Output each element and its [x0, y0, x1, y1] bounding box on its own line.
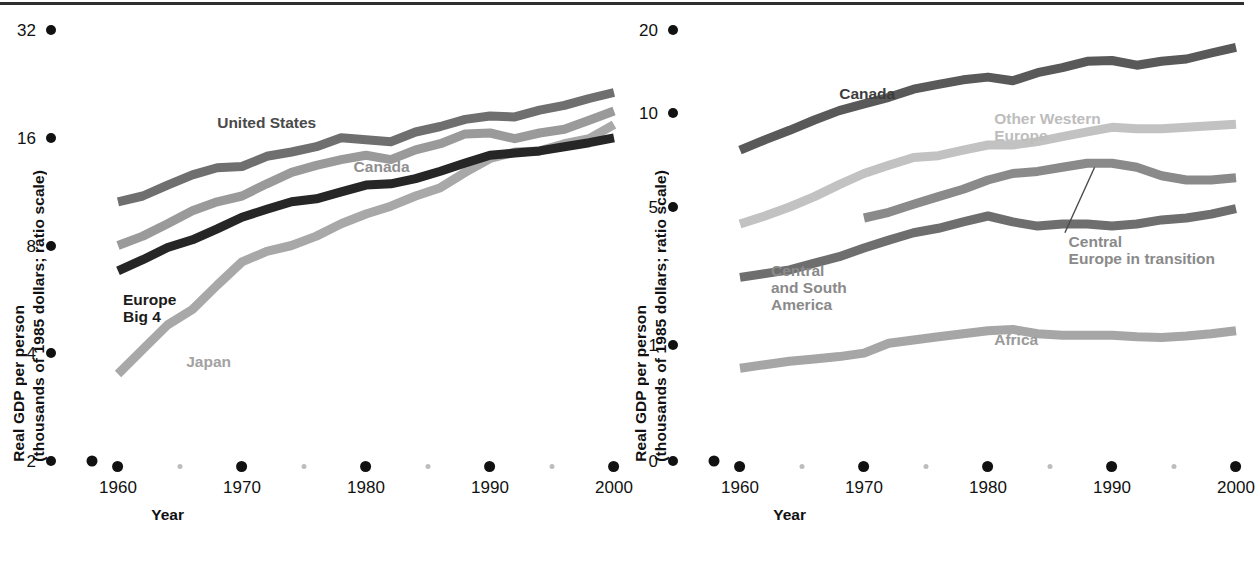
- plot-area-right: 015102019601970198019902000CanadaOther W…: [680, 0, 1244, 470]
- x-tick-dot: [426, 464, 431, 469]
- series-line-central-europe-in-transition: [864, 163, 1236, 218]
- y-tick-dot: [46, 241, 56, 251]
- series-label-united-states: United States: [217, 114, 316, 131]
- x-tick-minor-1995: [550, 461, 555, 469]
- y-axis-title-left: Real GDP per person (thousands of 1985 d…: [2, 0, 58, 470]
- x-tick-minor-1975: [302, 461, 307, 469]
- y-axis-title-right: Real GDP per person (thousands of 1985 d…: [624, 0, 680, 470]
- x-axis-origin-dot: [709, 456, 720, 467]
- x-tick-minor-1985: [426, 461, 431, 469]
- x-tick-1970: 1970: [223, 461, 261, 498]
- y-tick-dot: [46, 456, 56, 466]
- y-tick-8: 8: [0, 237, 58, 255]
- y-tick-label: 32: [17, 21, 36, 41]
- x-tick-minor-1965: [178, 461, 183, 469]
- y-axis-title-line1: Real GDP per person: [10, 305, 28, 462]
- x-tick-dot: [1106, 461, 1117, 472]
- y-axis-title-line1: Real GDP per person: [632, 305, 650, 462]
- x-tick-label: 1990: [1093, 478, 1131, 498]
- x-tick-dot: [112, 461, 123, 472]
- y-tick-dot: [668, 456, 678, 466]
- y-tick-20: 20: [622, 21, 680, 39]
- series-line-africa: [740, 329, 1236, 368]
- x-tick-label: 1980: [969, 478, 1007, 498]
- y-tick-5: 5: [622, 198, 680, 216]
- series-label-central-and-south-america: Central and South America: [771, 262, 847, 314]
- x-tick-dot: [734, 461, 745, 472]
- y-tick-label: 8: [27, 237, 36, 257]
- x-tick-dot: [360, 461, 371, 472]
- series-label-canada: Canada: [354, 158, 410, 175]
- x-tick-dot: [858, 461, 869, 472]
- y-tick-dot: [668, 202, 678, 212]
- x-tick-dot: [924, 464, 929, 469]
- y-tick-10: 10: [622, 104, 680, 122]
- x-axis-right: 19601970198019902000: [680, 461, 1244, 531]
- x-tick-dot: [982, 461, 993, 472]
- x-tick-1980: 1980: [347, 461, 385, 498]
- series-lines-left: [58, 0, 622, 470]
- x-tick-minor-1975: [924, 461, 929, 469]
- y-tick-dot: [668, 25, 678, 35]
- x-tick-dot: [484, 461, 495, 472]
- y-tick-1: 1: [622, 336, 680, 354]
- series-label-central-europe-in-transition: Central Europe in transition: [1069, 233, 1215, 268]
- x-tick-label: 1960: [721, 478, 759, 498]
- series-label-africa: Africa: [994, 331, 1038, 348]
- y-tick-32: 32: [0, 21, 58, 39]
- x-tick-dot: [1230, 461, 1241, 472]
- x-tick-minor-1995: [1172, 461, 1177, 469]
- y-tick-dot: [668, 108, 678, 118]
- y-tick-label: 10: [639, 104, 658, 124]
- x-tick-2000: 2000: [1217, 461, 1255, 498]
- x-tick-label: 2000: [1217, 478, 1255, 498]
- x-tick-label: 1990: [471, 478, 509, 498]
- x-tick-1990: 1990: [471, 461, 509, 498]
- y-tick-label: 16: [17, 129, 36, 149]
- plot-area-left: 248163219601970198019902000United States…: [58, 0, 622, 470]
- y-tick-0: 0: [622, 452, 680, 470]
- series-label-other-western-europe: Other Western Europe: [994, 110, 1101, 145]
- chart-panel-left: Real GDP per person (thousands of 1985 d…: [0, 0, 622, 562]
- x-axis-title-left: Year: [151, 506, 184, 524]
- x-tick-minor-1985: [1048, 461, 1053, 469]
- x-tick-dot: [1048, 464, 1053, 469]
- y-tick-label: 0: [649, 452, 658, 472]
- series-label-canada: Canada: [839, 85, 895, 102]
- x-tick-1980: 1980: [969, 461, 1007, 498]
- x-tick-dot: [178, 464, 183, 469]
- y-tick-dot: [46, 348, 56, 358]
- y-tick-2: 2: [0, 452, 58, 470]
- x-tick-1990: 1990: [1093, 461, 1131, 498]
- x-axis-title-right: Year: [773, 506, 806, 524]
- series-label-europe-big-4: Europe Big 4: [123, 291, 176, 326]
- series-line-canada: [740, 47, 1236, 150]
- x-tick-1970: 1970: [845, 461, 883, 498]
- y-tick-label: 20: [639, 21, 658, 41]
- y-tick-label: 2: [27, 452, 36, 472]
- y-tick-label: 5: [649, 198, 658, 218]
- y-tick-4: 4: [0, 344, 58, 362]
- x-tick-dot: [608, 461, 619, 472]
- x-tick-label: 1960: [99, 478, 137, 498]
- y-tick-label: 4: [27, 344, 36, 364]
- y-tick-dot: [668, 340, 678, 350]
- chart-panel-right: Real GDP per person (thousands of 1985 d…: [622, 0, 1244, 562]
- x-tick-1960: 1960: [99, 461, 137, 498]
- x-tick-dot: [236, 461, 247, 472]
- y-tick-dot: [46, 133, 56, 143]
- x-tick-dot: [800, 464, 805, 469]
- x-tick-minor-1965: [800, 461, 805, 469]
- x-tick-dot: [1172, 464, 1177, 469]
- x-axis-origin-dot: [87, 456, 98, 467]
- x-tick-dot: [302, 464, 307, 469]
- x-axis-left: 19601970198019902000: [58, 461, 622, 531]
- x-tick-label: 1980: [347, 478, 385, 498]
- y-axis-title-line2: (thousands of 1985 dollars; ratio scale): [30, 170, 48, 462]
- x-tick-dot: [550, 464, 555, 469]
- y-tick-label: 1: [649, 336, 658, 356]
- y-tick-16: 16: [0, 129, 58, 147]
- series-label-japan: Japan: [186, 353, 231, 370]
- x-tick-label: 1970: [845, 478, 883, 498]
- x-tick-1960: 1960: [721, 461, 759, 498]
